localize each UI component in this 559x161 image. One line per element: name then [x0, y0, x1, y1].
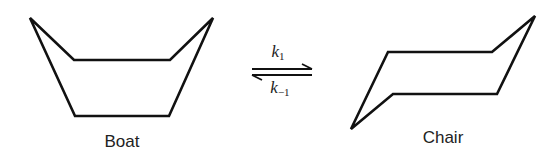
reverse-rate-constant: k−1 — [270, 78, 289, 98]
chair-label: Chair — [423, 128, 464, 148]
boat-label: Boat — [105, 132, 140, 152]
forward-rate-constant: k1 — [271, 42, 284, 62]
chair-conformation-shape — [351, 16, 535, 129]
boat-chair-diagram: k1 k−1 Boat Chair — [0, 0, 559, 161]
boat-conformation-shape — [30, 18, 213, 116]
